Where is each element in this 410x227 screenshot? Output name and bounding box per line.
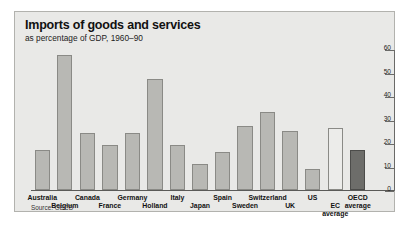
x-axis-label: Holland — [142, 202, 167, 210]
x-axis-label-line: UK — [285, 202, 295, 209]
y-axis-tick-mark — [385, 168, 394, 169]
bar — [350, 150, 365, 190]
page-title: Imports of goods and services — [25, 18, 386, 32]
x-axis-label: Japan — [190, 202, 210, 210]
x-axis-label-slot: Spain — [211, 192, 234, 222]
bar-slot — [211, 48, 234, 190]
x-axis-label-line: France — [99, 202, 122, 209]
bar — [147, 79, 162, 190]
bar-slot — [166, 48, 189, 190]
x-axis-label: Italy — [171, 194, 185, 202]
x-axis-label: Canada — [75, 194, 100, 202]
bar-slot — [301, 48, 324, 190]
chart-header: Imports of goods and services as percent… — [25, 18, 386, 44]
x-axis-label-slot: Switzerland — [256, 192, 279, 222]
bar — [215, 152, 230, 190]
x-axis-labels: AustraliaBelgiumCanadaFranceGermanyHolla… — [31, 192, 369, 222]
x-axis-label-slot: Canada — [76, 192, 99, 222]
x-axis-label-line: Sweden — [232, 202, 258, 209]
y-axis-tick-mark — [385, 191, 394, 192]
x-axis-label-slot: Germany — [121, 192, 144, 222]
bar-slot — [256, 48, 279, 190]
x-axis-label-slot: Italy — [166, 192, 189, 222]
bar — [57, 55, 72, 190]
bar-slot — [279, 48, 302, 190]
x-axis-label-slot: US — [301, 192, 324, 222]
x-axis-label: France — [99, 202, 122, 210]
y-axis-tick-mark — [385, 97, 394, 98]
source-note: Source: OECD — [31, 204, 73, 211]
x-axis-label-slot: Holland — [144, 192, 167, 222]
x-axis-label-line: Japan — [190, 202, 210, 209]
x-axis-baseline — [31, 190, 394, 191]
chart-subtitle: as percentage of GDP, 1960–90 — [25, 33, 386, 44]
bar — [328, 128, 343, 190]
x-axis-label-line: Spain — [213, 194, 232, 201]
x-axis-label: UK — [285, 202, 295, 210]
x-axis-label-slot: Japan — [189, 192, 212, 222]
x-axis-label-line: US — [308, 194, 318, 201]
y-axis-tick-mark — [385, 74, 394, 75]
x-axis-label-line: OECD — [348, 194, 368, 201]
bar — [102, 145, 117, 190]
x-axis-label-line: Italy — [171, 194, 185, 201]
bar — [125, 133, 140, 190]
bar — [80, 133, 95, 190]
chart-panel: Imports of goods and services as percent… — [14, 11, 395, 212]
x-axis-label: OECDaverage — [345, 194, 371, 210]
x-axis-label-line: Holland — [142, 202, 167, 209]
y-axis-tick-mark — [385, 121, 394, 122]
bar-slot — [121, 48, 144, 190]
x-axis-label-line: average — [345, 202, 371, 210]
x-axis-label-line: EC — [330, 202, 340, 209]
x-axis-label-line: Canada — [75, 194, 100, 201]
x-axis-label-slot: UK — [279, 192, 302, 222]
bar — [305, 169, 320, 190]
x-axis-label: US — [308, 194, 318, 202]
bar — [170, 145, 185, 190]
bar — [35, 150, 50, 190]
bar-slot — [31, 48, 54, 190]
y-axis: 0102030405060 — [371, 42, 401, 192]
bar-slot — [76, 48, 99, 190]
bar-slot — [189, 48, 212, 190]
x-axis-label-line: average — [322, 210, 348, 218]
bar — [237, 126, 252, 190]
x-axis-label-slot: ECaverage — [324, 192, 347, 222]
bar-slot — [324, 48, 347, 190]
plot-area — [31, 48, 369, 190]
x-axis-label: Spain — [213, 194, 232, 202]
x-axis-label: Sweden — [232, 202, 258, 210]
y-axis-tick-mark — [385, 144, 394, 145]
bars-container — [31, 48, 369, 190]
bar-slot — [234, 48, 257, 190]
y-axis-line — [394, 50, 395, 191]
bar — [260, 112, 275, 190]
x-axis-label-slot: OECDaverage — [346, 192, 369, 222]
bar — [192, 164, 207, 190]
bar — [282, 131, 297, 190]
bar-slot — [99, 48, 122, 190]
bar-slot — [346, 48, 369, 190]
y-axis-tick-mark — [385, 50, 394, 51]
bar-slot — [144, 48, 167, 190]
bar-slot — [54, 48, 77, 190]
